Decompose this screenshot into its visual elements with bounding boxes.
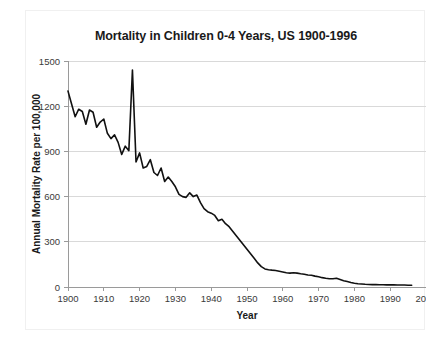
x-tick-label: 1950 (236, 293, 257, 304)
x-tick-label: 1960 (272, 293, 293, 304)
y-tick-label: 300 (44, 236, 60, 247)
y-tick-label: 900 (44, 146, 60, 157)
y-tick-label: 0 (55, 282, 60, 293)
series-line-mortality-rate (68, 70, 412, 285)
chart-card: Mortality in Children 0-4 Years, US 1900… (25, 10, 425, 330)
x-tick-label: 1910 (93, 293, 114, 304)
y-axis: 030060090012001500 (39, 56, 426, 293)
x-axis-title: Year (236, 310, 257, 321)
y-tick-label: 600 (44, 191, 60, 202)
mortality-line-chart: 030060090012001500 190019101920193019401… (26, 11, 426, 331)
x-tick-label: 1980 (344, 293, 365, 304)
y-tick-label: 1500 (39, 56, 60, 67)
x-tick-label: 1990 (380, 293, 401, 304)
y-tick-label: 1200 (39, 101, 60, 112)
x-tick-label: 1970 (308, 293, 329, 304)
y-axis-title: Annual Mortality Rate per 100,000 (31, 94, 42, 254)
x-tick-label: 1930 (165, 293, 186, 304)
x-tick-label: 1900 (57, 293, 78, 304)
x-axis: 1900191019201930194019501960197019801990… (57, 287, 426, 304)
x-tick-label: 1940 (201, 293, 222, 304)
x-tick-label: 2000 (415, 293, 426, 304)
x-tick-label: 1920 (129, 293, 150, 304)
